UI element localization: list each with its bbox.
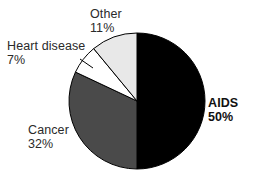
- slice-label-cancer-percent: 32%: [28, 138, 69, 152]
- slice-label-other-name: Other: [90, 8, 122, 22]
- slice-label-heart-disease-percent: 7%: [7, 54, 85, 68]
- slice-label-heart-disease: Heart disease 7%: [7, 40, 85, 67]
- slice-label-cancer: Cancer 32%: [28, 124, 69, 151]
- slice-label-cancer-name: Cancer: [28, 124, 69, 138]
- slice-label-aids-name: AIDS: [208, 97, 238, 111]
- slice-label-aids: AIDS 50%: [208, 97, 238, 124]
- pie-chart-graphic: [0, 0, 255, 181]
- pie-slice-aids: [137, 33, 205, 169]
- slice-label-other: Other 11%: [90, 8, 122, 35]
- slice-label-heart-disease-name: Heart disease: [7, 40, 85, 54]
- slice-label-other-percent: 11%: [90, 22, 122, 36]
- slice-label-aids-percent: 50%: [208, 111, 238, 125]
- pie-chart: Other 11% Heart disease 7% Cancer 32% AI…: [0, 0, 255, 181]
